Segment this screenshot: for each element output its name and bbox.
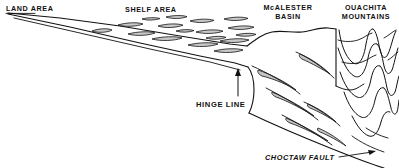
mountains-label-line1: OUACHITA	[345, 3, 387, 12]
fold-line	[340, 66, 380, 98]
fold-line	[373, 29, 396, 57]
land-area-label: LAND AREA	[6, 4, 53, 13]
choctaw-fault-leader	[339, 152, 372, 157]
choctaw-fault-arrowhead	[368, 150, 376, 155]
sand-lens	[152, 37, 182, 41]
sand-lens	[220, 39, 249, 43]
hinge-line-label: HINGE LINE	[196, 100, 245, 109]
thrust-sheet	[299, 54, 330, 74]
sand-lens	[228, 26, 254, 30]
sand-lens	[92, 29, 112, 33]
sand-lens	[118, 23, 143, 27]
mountains-label-line2: MOUNTAINS	[342, 12, 390, 21]
sand-lens	[142, 18, 160, 20]
sand-lens-group	[92, 16, 256, 53]
cross-section-drawing: LAND AREA SHELF AREA McALESTER BASIN OUA…	[0, 0, 399, 168]
sand-lens	[196, 30, 223, 34]
basin-top-surface	[247, 28, 336, 46]
sand-lens	[224, 17, 248, 20]
fold-line	[352, 136, 384, 152]
label-land-area: LAND AREA	[6, 4, 53, 13]
thrust-sheet-group	[252, 52, 346, 146]
label-mcalester-basin: McALESTER BASIN	[264, 3, 313, 21]
fold-line	[384, 88, 399, 114]
folded-strata-group	[336, 29, 399, 152]
label-ouachita-mountains: OUACHITA MOUNTAINS	[342, 3, 390, 21]
hinge-descent-line	[248, 67, 254, 113]
sand-lens	[128, 32, 155, 36]
wedge-top-line	[8, 13, 247, 46]
geologic-cross-section-figure: LAND AREA SHELF AREA McALESTER BASIN OUA…	[0, 0, 399, 168]
shelf-area-label: SHELF AREA	[125, 5, 177, 14]
hinge-line-annotation: HINGE LINE	[196, 68, 245, 109]
fold-line	[380, 66, 399, 95]
sand-lens	[214, 49, 243, 53]
sand-lens	[188, 43, 218, 47]
fold-line	[336, 84, 364, 90]
sand-lens	[166, 16, 187, 19]
choctaw-fault-annotation: CHOCTAW FAULT	[265, 150, 376, 162]
sand-lens	[190, 19, 214, 22]
wedge-bottom-line	[8, 14, 248, 67]
basin-label-line2: BASIN	[275, 12, 300, 21]
sand-lens	[206, 36, 226, 39]
fold-line	[388, 52, 398, 60]
sand-lens	[236, 33, 256, 36]
choctaw-fault-label: CHOCTAW FAULT	[265, 153, 335, 162]
sand-lens	[176, 30, 194, 33]
basin-label-line1: McALESTER	[264, 3, 313, 12]
sand-lens	[158, 24, 183, 28]
